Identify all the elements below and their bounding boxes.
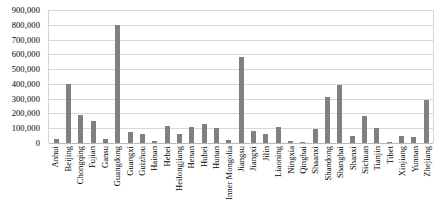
x-tick-label: Qinghai (298, 146, 308, 174)
bar[interactable] (411, 137, 416, 143)
bar-slot (395, 10, 407, 143)
x-tick-label: Gansu (100, 146, 110, 168)
bar[interactable] (337, 85, 342, 143)
x-axis: AnhuiBeijingChongqingFujianGansuGuangdon… (48, 145, 434, 224)
bar[interactable] (387, 142, 392, 143)
bar-slot (99, 10, 111, 143)
bar-slot (235, 10, 247, 143)
bar[interactable] (362, 116, 367, 143)
x-slot: Shandong (322, 145, 334, 224)
bar[interactable] (66, 84, 71, 143)
bar[interactable] (214, 128, 219, 143)
bar[interactable] (263, 134, 268, 143)
bar-slot (309, 10, 321, 143)
bar[interactable] (202, 124, 207, 143)
y-tick-label: 800,000 (12, 20, 40, 30)
bar[interactable] (399, 136, 404, 143)
x-tick-label: Anhui (50, 146, 60, 168)
bar-slot (173, 10, 185, 143)
y-tick-label: 0 (36, 138, 40, 148)
x-slot: Heilongjiang (173, 145, 185, 224)
x-slot: Ningxia (284, 145, 296, 224)
x-slot: Tianjin (371, 145, 383, 224)
bar-slot (223, 10, 235, 143)
x-tick-label: Shaanxi (310, 146, 320, 174)
bar[interactable] (177, 134, 182, 143)
bar-slot (247, 10, 259, 143)
bar[interactable] (300, 142, 305, 143)
x-tick-label: Ningxia (286, 146, 296, 174)
bar-slot (346, 10, 358, 143)
y-tick-label: 700,000 (12, 35, 40, 45)
bar[interactable] (325, 97, 330, 143)
bar[interactable] (78, 115, 83, 143)
gridline (49, 143, 433, 144)
x-slot: Zhejiang (421, 145, 433, 224)
y-tick-label: 100,000 (12, 123, 40, 133)
bar-slot (272, 10, 284, 143)
x-tick-label: Liaoning (273, 146, 283, 177)
bar[interactable] (165, 126, 170, 143)
x-tick-label: Shanghai (335, 146, 345, 178)
bar[interactable] (226, 140, 231, 143)
x-slot: Beijing (61, 145, 73, 224)
bar-slot (284, 10, 296, 143)
bar-slot (260, 10, 272, 143)
bar-slot (75, 10, 87, 143)
bar[interactable] (103, 139, 108, 143)
x-slot: Fujian (86, 145, 98, 224)
bar[interactable] (115, 25, 120, 143)
bar-slot (297, 10, 309, 143)
x-tick-label: Xinjiang (397, 146, 407, 176)
x-slot: Guizhou (136, 145, 148, 224)
x-tick-label: Hunan (211, 146, 221, 169)
x-tick-label: Shandong (323, 146, 333, 180)
x-tick-label: Guangxi (125, 146, 135, 176)
bar-slot (334, 10, 346, 143)
y-tick-label: 200,000 (12, 108, 40, 118)
bar-slot (186, 10, 198, 143)
bar-slot (408, 10, 420, 143)
x-tick-label: Jilin (261, 146, 271, 161)
bar[interactable] (140, 134, 145, 143)
y-axis: 900,000800,000700,000600,000500,000400,0… (0, 0, 44, 224)
x-slot: Hubei (198, 145, 210, 224)
bar[interactable] (288, 141, 293, 143)
x-slot: Jiangsu (235, 145, 247, 224)
x-slot: Anhui (49, 145, 61, 224)
x-slot: Tibet (384, 145, 396, 224)
bar[interactable] (128, 132, 133, 143)
x-slot: Hebei (161, 145, 173, 224)
y-tick-label: 900,000 (12, 5, 40, 15)
x-slot: Inner Mongolia (222, 145, 234, 224)
bar-slot (161, 10, 173, 143)
bar-slot (149, 10, 161, 143)
x-slot: Chongqing (74, 145, 86, 224)
x-tick-label: Sichuan (360, 146, 370, 174)
x-tick-label: Tianjin (372, 146, 382, 171)
bar[interactable] (276, 127, 281, 143)
x-slot: Jiangxi (247, 145, 259, 224)
bar[interactable] (91, 121, 96, 143)
bar[interactable] (152, 141, 157, 143)
x-slot: Liaoning (272, 145, 284, 224)
plot-area (48, 10, 434, 143)
bar-slot (321, 10, 333, 143)
bar[interactable] (54, 139, 59, 143)
x-tick-label: Hubei (199, 146, 209, 167)
bar-slot (112, 10, 124, 143)
bar-slot (50, 10, 62, 143)
y-tick-label: 400,000 (12, 79, 40, 89)
x-tick-label: Heilongjiang (174, 146, 184, 191)
bar[interactable] (424, 100, 429, 143)
bar[interactable] (239, 57, 244, 143)
bar[interactable] (313, 129, 318, 143)
bar-slot (358, 10, 370, 143)
bar[interactable] (350, 136, 355, 143)
x-slot: Shaanxi (309, 145, 321, 224)
bar[interactable] (374, 128, 379, 143)
bar[interactable] (189, 127, 194, 143)
bar[interactable] (251, 131, 256, 143)
x-tick-label: Inner Mongolia (224, 146, 234, 200)
x-slot: Guangxi (123, 145, 135, 224)
